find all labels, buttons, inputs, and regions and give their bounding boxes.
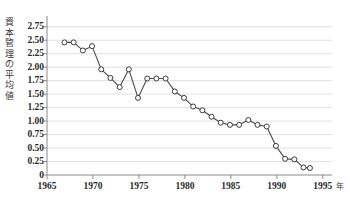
data-point-marker — [80, 48, 85, 53]
data-point-marker — [264, 124, 269, 129]
data-point-marker — [218, 120, 223, 125]
x-axis-tick-label: 1990 — [267, 182, 286, 192]
chart-container: 資本管理の平均値 2.752.502.252.001.751.501.251.0… — [0, 0, 349, 217]
data-point-marker — [273, 143, 278, 148]
data-point-marker — [191, 104, 196, 109]
data-point-marker — [283, 156, 288, 161]
data-point-marker — [246, 118, 251, 123]
x-axis-unit-label: 年 — [336, 183, 344, 191]
data-point-marker — [126, 67, 131, 72]
x-axis-tick-label: 1965 — [38, 182, 57, 192]
data-point-marker — [108, 75, 113, 80]
data-point-marker — [71, 40, 76, 45]
data-point-marker — [227, 122, 232, 127]
data-point-marker — [62, 40, 67, 45]
data-point-marker — [90, 44, 95, 49]
data-point-marker — [145, 76, 150, 81]
data-point-marker — [200, 108, 205, 113]
x-axis-tick-label: 1970 — [83, 182, 102, 192]
data-point-marker — [154, 76, 159, 81]
x-axis-tick-label: 1980 — [175, 182, 194, 192]
data-point-marker — [237, 122, 242, 127]
data-point-marker — [301, 165, 306, 170]
data-point-marker — [255, 122, 260, 127]
data-point-marker — [292, 157, 297, 162]
series-line — [64, 42, 309, 168]
data-point-marker — [209, 114, 214, 119]
x-axis-tick-label: 1975 — [129, 182, 148, 192]
data-point-marker — [163, 76, 168, 81]
data-point-marker — [117, 85, 122, 90]
x-axis-tick-label: 1995 — [313, 182, 332, 192]
data-point-marker — [99, 67, 104, 72]
data-point-marker — [307, 165, 312, 170]
data-point-marker — [181, 95, 186, 100]
x-axis-tick-label: 1985 — [221, 182, 240, 192]
data-point-marker — [172, 89, 177, 94]
data-point-marker — [136, 95, 141, 100]
